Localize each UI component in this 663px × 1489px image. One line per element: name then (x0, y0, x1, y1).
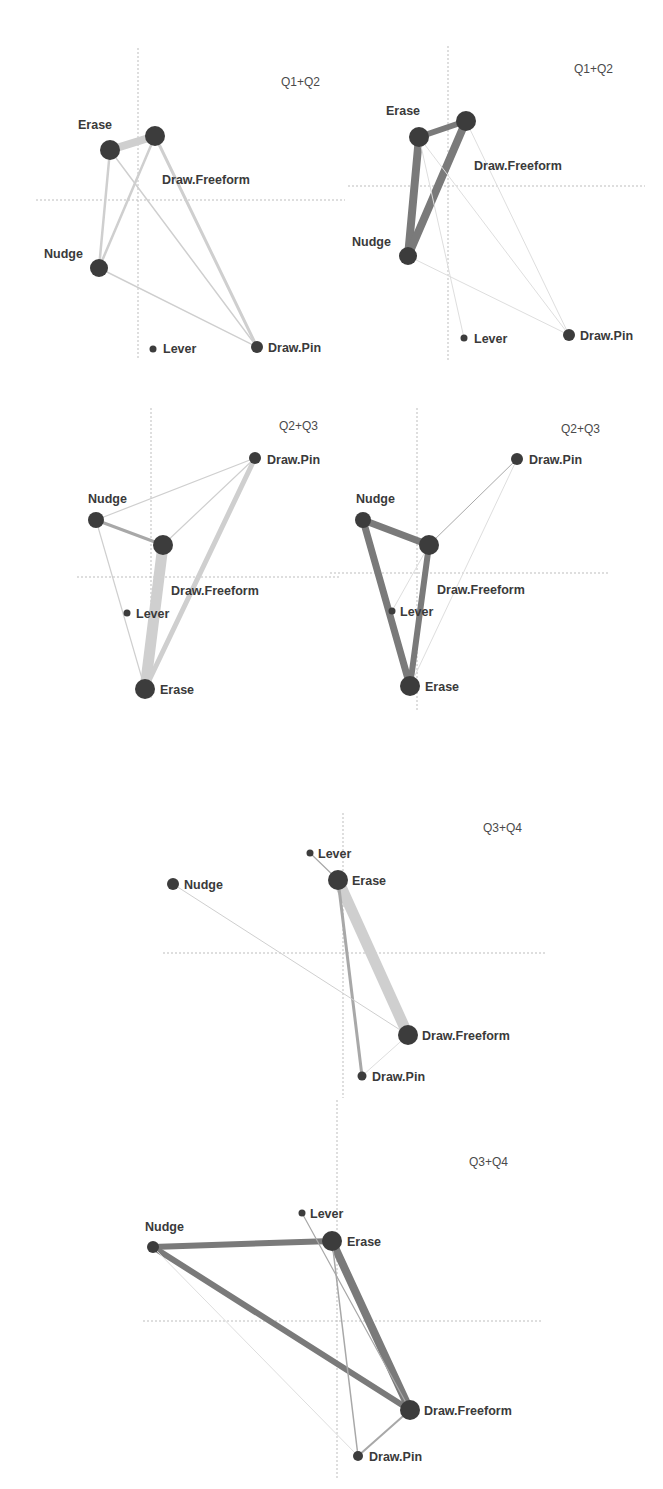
node-nudge (90, 259, 108, 277)
edge-nudge-draw-pin (408, 256, 569, 335)
node-nudge (167, 878, 179, 890)
node-label-draw-pin: Draw.Pin (267, 453, 320, 467)
network-figure: Q1+Q2EraseDraw.FreeformNudgeLeverDraw.Pi… (0, 0, 663, 1489)
edge-erase-nudge (99, 150, 110, 268)
edge-nudge-draw-freeform (363, 520, 429, 545)
node-label-lever: Lever (136, 607, 169, 621)
nodes: EraseDraw.FreeformNudgeLeverDraw.Pin (352, 104, 633, 346)
node-label-nudge: Nudge (44, 247, 83, 261)
node-label-lever: Lever (318, 847, 351, 861)
nodes: EraseDraw.FreeformNudgeLeverDraw.Pin (44, 118, 321, 356)
node-label-draw-freeform: Draw.Freeform (171, 584, 259, 598)
edge-nudge-draw-pin (153, 1247, 358, 1456)
node-label-draw-freeform: Draw.Freeform (162, 173, 250, 187)
node-label-nudge: Nudge (145, 1220, 184, 1234)
panel-q3q4-top: Q3+Q4LeverEraseNudgeDraw.FreeformDraw.Pi… (163, 813, 545, 1098)
node-draw-freeform (153, 535, 173, 555)
node-lever (461, 335, 468, 342)
node-label-nudge: Nudge (356, 492, 395, 506)
panel-q2q3-right: Q2+Q3Draw.PinNudgeDraw.FreeformLeverEras… (330, 408, 608, 710)
edge-draw-freeform-draw-pin (155, 136, 257, 347)
node-draw-pin (563, 329, 575, 341)
node-label-draw-pin: Draw.Pin (529, 453, 582, 467)
edge-nudge-draw-freeform (96, 520, 163, 545)
nodes: LeverEraseNudgeDraw.FreeformDraw.Pin (167, 847, 510, 1084)
node-label-lever: Lever (474, 332, 507, 346)
node-erase (100, 140, 120, 160)
node-label-draw-pin: Draw.Pin (372, 1070, 425, 1084)
node-erase (409, 127, 429, 147)
node-lever (307, 850, 314, 857)
node-label-draw-freeform: Draw.Freeform (474, 159, 562, 173)
node-draw-pin (251, 341, 263, 353)
nodes: Draw.PinNudgeDraw.FreeformLeverErase (88, 452, 320, 699)
edge-nudge-erase (153, 1241, 332, 1247)
node-draw-pin (511, 453, 523, 465)
node-label-erase: Erase (160, 683, 194, 697)
node-label-nudge: Nudge (352, 235, 391, 249)
edges (99, 136, 257, 347)
nodes: Draw.PinNudgeDraw.FreeformLeverErase (355, 453, 582, 696)
node-draw-freeform (419, 535, 439, 555)
panels-container: Q1+Q2EraseDraw.FreeformNudgeLeverDraw.Pi… (36, 46, 645, 1480)
panel-q3q4-bottom: Q3+Q4LeverNudgeEraseDraw.FreeformDraw.Pi… (143, 1100, 543, 1480)
node-nudge (88, 512, 104, 528)
panel-q2q3-left: Q2+Q3Draw.PinNudgeDraw.FreeformLeverEras… (77, 408, 340, 700)
node-nudge (147, 1241, 159, 1253)
node-label-erase: Erase (78, 118, 112, 132)
edge-draw-freeform-draw-pin (429, 459, 517, 545)
panel-title: Q3+Q4 (469, 1155, 508, 1169)
node-label-nudge: Nudge (88, 492, 127, 506)
node-label-lever: Lever (163, 342, 196, 356)
node-erase (322, 1231, 342, 1251)
panel-q1q2-right: Q1+Q2EraseDraw.FreeformNudgeLeverDraw.Pi… (348, 46, 645, 360)
panel-title: Q2+Q3 (561, 422, 600, 436)
node-lever (124, 610, 131, 617)
node-lever (299, 1210, 306, 1217)
node-label-lever: Lever (310, 1207, 343, 1221)
node-erase (400, 676, 420, 696)
edge-nudge-erase (96, 520, 145, 689)
node-erase (328, 870, 348, 890)
node-label-nudge: Nudge (184, 878, 223, 892)
edge-nudge-erase (363, 520, 410, 686)
node-label-draw-pin: Draw.Pin (268, 341, 321, 355)
edge-nudge-draw-pin (99, 268, 257, 347)
node-label-draw-pin: Draw.Pin (580, 329, 633, 343)
node-label-lever: Lever (400, 605, 433, 619)
node-nudge (399, 247, 417, 265)
node-label-erase: Erase (347, 1235, 381, 1249)
node-label-erase: Erase (352, 874, 386, 888)
node-label-draw-freeform: Draw.Freeform (437, 583, 525, 597)
node-label-draw-freeform: Draw.Freeform (424, 1404, 512, 1418)
node-draw-pin (249, 452, 261, 464)
panel-title: Q2+Q3 (279, 419, 318, 433)
panel-title: Q1+Q2 (281, 75, 320, 89)
edges (408, 121, 569, 338)
node-lever (389, 608, 396, 615)
node-lever (150, 346, 157, 353)
node-draw-pin (353, 1451, 363, 1461)
node-draw-freeform (456, 111, 476, 131)
node-erase (135, 679, 155, 699)
node-label-draw-freeform: Draw.Freeform (422, 1029, 510, 1043)
node-nudge (355, 512, 371, 528)
node-label-draw-pin: Draw.Pin (369, 1450, 422, 1464)
panel-title: Q1+Q2 (574, 62, 613, 76)
node-draw-pin (358, 1072, 367, 1081)
edge-draw-freeform-draw-pin (466, 121, 569, 335)
node-draw-freeform (400, 1400, 420, 1420)
node-draw-freeform (398, 1025, 418, 1045)
node-draw-freeform (145, 126, 165, 146)
node-label-erase: Erase (425, 680, 459, 694)
edge-draw-freeform-draw-pin (163, 458, 255, 545)
node-label-erase: Erase (386, 104, 420, 118)
edges (153, 1213, 410, 1456)
panel-q1q2-left: Q1+Q2EraseDraw.FreeformNudgeLeverDraw.Pi… (36, 48, 345, 360)
panel-title: Q3+Q4 (483, 821, 522, 835)
